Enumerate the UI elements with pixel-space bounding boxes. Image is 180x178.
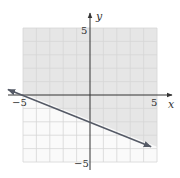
x-tick-label-neg5: −5 [12, 97, 27, 108]
x-tick-label-5: 5 [151, 97, 157, 108]
x-axis-label: x [168, 98, 175, 111]
y-tick-label-5: 5 [81, 25, 87, 36]
y-axis-label: y [95, 10, 103, 23]
coordinate-graph: x y −5 5 5 −5 [0, 0, 180, 178]
y-tick-label-neg5: −5 [74, 158, 89, 169]
